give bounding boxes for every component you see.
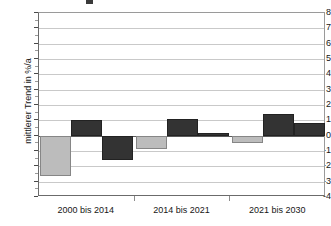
gridline <box>39 166 324 167</box>
bar <box>102 136 133 161</box>
y-axis-tick-mark <box>34 196 38 197</box>
gridline <box>39 28 324 29</box>
bar <box>294 123 325 136</box>
bar <box>167 119 198 136</box>
gridline <box>39 151 324 152</box>
gridline <box>39 90 324 91</box>
x-axis-category-label: 2000 bis 2014 <box>58 205 115 215</box>
bar <box>40 136 71 176</box>
legend-fragment-icon <box>86 0 93 4</box>
x-axis-category-separator <box>134 196 135 201</box>
x-axis-category-label: 2014 bis 2021 <box>153 205 210 215</box>
gridline <box>39 44 324 45</box>
plot-inner <box>39 13 324 195</box>
bar <box>136 136 167 150</box>
plot-area <box>38 12 325 196</box>
y-axis-title: mittlerer Trend in %/a <box>23 21 33 181</box>
bar <box>263 114 294 135</box>
gridline <box>39 105 324 106</box>
bar <box>71 120 102 135</box>
gridline <box>39 182 324 183</box>
x-axis-category-separator <box>229 196 230 201</box>
bar <box>232 136 263 144</box>
gridline <box>39 59 324 60</box>
zero-line <box>39 136 324 137</box>
chart-container: mittlerer Trend in %/a 876543210-1-2-3-4… <box>0 0 331 226</box>
gridline <box>39 74 324 75</box>
x-axis-category-label: 2021 bis 2030 <box>249 205 306 215</box>
bar <box>198 133 229 136</box>
